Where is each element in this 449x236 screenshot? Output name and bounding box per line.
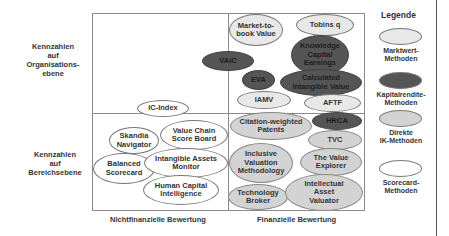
method-label: EVA [251,76,266,85]
column-label-nichtfinanziell: Nichtfinanzielle Bewertung [110,215,206,224]
method-technology-broker: TechnologyBroker [228,184,288,210]
method-hrca: HRCA [312,112,362,130]
method-the-value-explorer: The ValueExplorer [300,148,362,176]
method-label: Value ChainScore Board [172,127,217,144]
row-label-line: auf [18,159,92,168]
method-value-chain-score-board: Value ChainScore Board [160,120,228,150]
legend-swatch-kapitalrendite [379,72,422,89]
method-market-to-book-value: Market-to-book Value [229,14,283,46]
method-intangible-assets-monitor: Intangible AssetsMonitor [144,148,228,178]
method-label: KnowledgeCapitalEarnings [300,42,340,68]
row-label-line: Kennzahlen [14,42,92,51]
method-label: CalculatedIntangible Value [292,74,349,91]
legend-label-marktwert: Marktwert-Methoden [368,47,434,63]
method-label: AFTF [323,99,342,108]
method-tobins-q: Tobins q [296,14,354,36]
method-label: VAIC [219,57,236,66]
method-intellectual-asset-valuator: IntellectualAssetValuator [285,174,363,211]
method-label: Intangible AssetsMonitor [155,155,217,172]
row-label-line: ebene [14,69,92,78]
method-label: IAMV [255,96,274,105]
method-vaic: VAIC [202,51,254,71]
method-label: The ValueExplorer [313,154,348,171]
right-border-line [436,0,437,236]
method-label: Human CapitalIntelligence [155,182,208,199]
row-label-line: Kennzahlen [18,150,92,159]
column-divider [228,13,229,211]
legend-label-scorecard: Scorecard-Methoden [368,179,434,195]
method-label: IntellectualAssetValuator [304,180,343,206]
method-label: BalancedScorecard [106,160,143,177]
legend-label-direkte: DirekteIK-Methoden [368,129,434,145]
method-label: TechnologyBroker [237,189,279,206]
method-label: HRCA [326,117,348,126]
method-label: TVC [328,136,343,145]
method-inclusive-valuation-methodology: InclusiveValuationMethodology [229,143,293,183]
row-label-line: Organisations- [14,60,92,69]
legend-swatch-direkte [379,110,422,127]
legend-swatch-scorecard [379,160,422,177]
method-eva: EVA [242,70,275,90]
method-label: IC-Index [148,104,178,113]
row-label-line: Bereichsebene [18,168,92,177]
row-label-line: auf [14,51,92,60]
method-human-capital-intelligence: Human CapitalIntelligence [143,175,219,205]
legend-swatch-marktwert [379,28,422,45]
method-skandia-navigator: SkandiaNavigator [109,127,159,154]
method-tvc: TVC [308,130,362,150]
method-aftf: AFTF [304,94,361,112]
method-ic-index: IC-Index [137,100,189,117]
method-label: Citation-weightedPatents [240,118,303,135]
method-label: SkandiaNavigator [117,132,152,149]
method-citation-weighted-patents: Citation-weightedPatents [230,112,312,140]
row-label-bereichsebene: Kennzahlen auf Bereichsebene [18,150,92,177]
legend-title: Legende [381,10,416,20]
legend-label-kapitalrendite: Kapitalrendite-Methoden [368,91,434,107]
method-iamv: IAMV [237,91,291,109]
method-label: Tobins q [310,21,341,30]
method-calculated-intangible-value: CalculatedIntangible Value [280,69,362,96]
method-label: InclusiveValuationMethodology [238,150,285,176]
column-label-finanziell: Finanzielle Bewertung [257,215,336,224]
method-label: Market-to-book Value [236,22,276,39]
row-label-organisationsebene: Kennzahlen auf Organisations- ebene [14,42,92,78]
